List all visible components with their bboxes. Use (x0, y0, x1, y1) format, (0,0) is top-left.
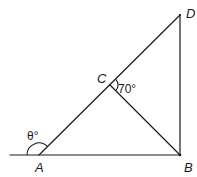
diagram-canvas: A B C D θ° 70° (0, 0, 197, 177)
point-b-dot (179, 154, 182, 157)
label-point-b: B (184, 160, 193, 175)
label-angle-theta: θ° (27, 129, 39, 143)
label-angle-70: 70° (118, 82, 136, 96)
label-point-c: C (97, 71, 107, 86)
label-point-a: A (34, 160, 44, 175)
geometry-diagram: A B C D θ° 70° (0, 0, 197, 177)
label-point-d: D (186, 6, 195, 21)
point-d-dot (179, 14, 181, 16)
